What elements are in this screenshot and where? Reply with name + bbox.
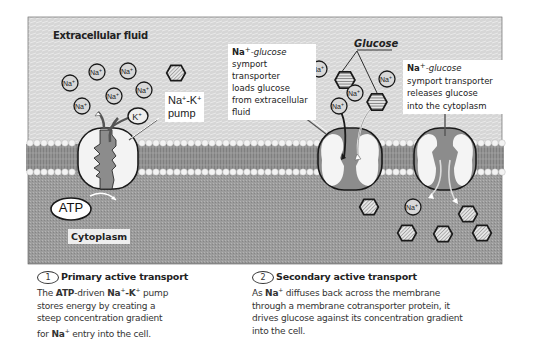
atp-label: ATP (53, 200, 89, 215)
glucose-molecule-cytoplasm (398, 225, 417, 240)
glucose-molecule-bound-2 (367, 94, 387, 110)
glucose-molecule-cytoplasm (459, 206, 478, 221)
glucose-molecule-cytoplasm (360, 199, 379, 214)
symport-release-label: Na+-glucose symport transporter releases… (403, 60, 506, 114)
caption-secondary-active-transport: 2Secondary active transport As Na+ diffu… (252, 271, 522, 337)
symport-load-label: Na+-glucose symport transporter loads gl… (228, 44, 316, 120)
symport-protein-load (318, 128, 382, 190)
symport-protein-release (414, 128, 476, 190)
na-k-pump-label: Na+-K+ pump (165, 92, 204, 122)
glucose-molecule-extracellular (167, 65, 186, 80)
glucose-molecule-cytoplasm (473, 225, 492, 240)
caption-primary-active-transport: 1Primary active transport The ATP-driven… (37, 271, 237, 340)
step-number-2: 2 (252, 271, 274, 284)
extracellular-fluid-label: Extracellular fluid (53, 30, 148, 41)
na-k-pump-protein (78, 128, 138, 189)
cytoplasm-label: Cytoplasm (68, 229, 130, 244)
glucose-label: Glucose (354, 38, 398, 49)
glucose-molecule-cytoplasm (434, 226, 453, 241)
step-number-1: 1 (37, 271, 59, 284)
